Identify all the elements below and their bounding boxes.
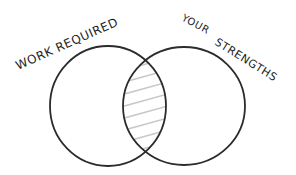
work-required-circle bbox=[50, 46, 166, 166]
your-label: YOUR bbox=[179, 12, 211, 36]
venn-diagram: WORK REQUIRED YOUR STRENGTHS bbox=[0, 0, 296, 175]
your-strengths-circle bbox=[123, 47, 245, 165]
